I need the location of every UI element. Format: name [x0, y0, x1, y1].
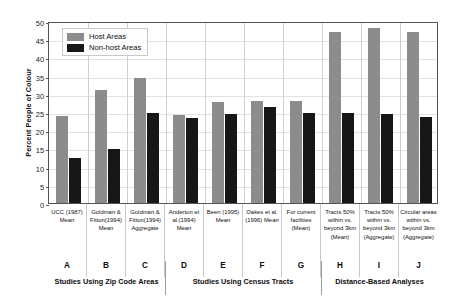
group-separator: [165, 261, 166, 295]
legend-label-nonhost: Non-host Areas: [89, 43, 141, 52]
y-axis-tick-label: 30: [36, 91, 44, 100]
y-axis-tick-label: 0: [40, 201, 44, 210]
y-axis-tick-label: 10: [36, 164, 44, 173]
bar-nonhost: [225, 114, 237, 203]
x-axis-category-letter: D: [165, 261, 204, 277]
y-axis-tick-label: 35: [36, 73, 44, 82]
bar-host: [368, 28, 380, 203]
nonhost-swatch-icon: [67, 44, 84, 52]
legend-item-host: Host Areas: [67, 32, 141, 41]
x-axis-category-label: Circular areas within vs. beyond 3km (Ag…: [399, 204, 438, 261]
x-axis-category-letter: E: [204, 261, 243, 277]
bar-nonhost: [342, 113, 354, 203]
x-axis-category-label: For current facilities (Mean): [282, 204, 321, 261]
legend: Host Areas Non-host Areas: [62, 28, 148, 56]
bar-nonhost: [420, 117, 432, 203]
x-axis-category-label: Tracts 50% within vs. beyond 3km (Aggreg…: [360, 204, 399, 261]
bar-group: [283, 23, 322, 203]
x-axis-category-label: Goldman & Fitton(1994) Aggregate: [126, 204, 165, 261]
bar-host: [212, 102, 224, 203]
x-axis-category-label: UCC (1987) Mean: [48, 204, 87, 261]
bar-group: [361, 23, 400, 203]
bar-group: [400, 23, 439, 203]
y-axis-tick-label: 5: [40, 182, 44, 191]
x-axis-category-letter: A: [48, 261, 87, 277]
x-axis-group-label: Studies Using Census Tracts: [165, 277, 321, 295]
x-axis-group-band: Studies Using Zip Code AreasStudies Usin…: [48, 277, 438, 295]
bar-host: [407, 32, 419, 203]
x-axis-category-label: Oakes et al. (1996) Mean: [243, 204, 282, 261]
x-axis-category-label: Anderton et al.(1994) Mean: [165, 204, 204, 261]
chart-root: Percent People of Colour 051015202530354…: [0, 0, 452, 299]
y-axis-tick-label: 50: [36, 19, 44, 28]
legend-label-host: Host Areas: [89, 32, 126, 41]
x-axis-category-letter: B: [87, 261, 126, 277]
bar-host: [329, 32, 341, 203]
bar-host: [134, 78, 146, 203]
x-axis-category-letter: I: [360, 261, 399, 277]
bar-nonhost: [303, 113, 315, 203]
y-axis-tick-label: 15: [36, 146, 44, 155]
bar-group: [322, 23, 361, 203]
x-axis-label-band: UCC (1987) MeanGoldman & Fitton(1994) Me…: [48, 204, 438, 261]
x-axis-category-label: Been (1995) Mean: [204, 204, 243, 261]
bar-group: [166, 23, 205, 203]
x-axis-category-letter: C: [126, 261, 165, 277]
bar-host: [290, 101, 302, 203]
y-axis-tick-label: 25: [36, 110, 44, 119]
bar-nonhost: [69, 158, 81, 204]
bar-host: [56, 116, 68, 203]
x-axis-category-letter: H: [321, 261, 360, 277]
group-separator: [321, 261, 322, 295]
bar-group: [244, 23, 283, 203]
y-axis-tick-label: 40: [36, 55, 44, 64]
bar-nonhost: [186, 118, 198, 203]
y-axis-title: Percent People of Colour: [24, 33, 33, 193]
y-axis-tick-label: 45: [36, 37, 44, 46]
y-axis-tick-label: 20: [36, 128, 44, 137]
x-axis-category-letter: J: [399, 261, 438, 277]
x-axis-letter-band: ABCDEFGHIJ: [48, 261, 438, 277]
x-axis-category-letter: G: [282, 261, 321, 277]
x-axis-category-label: Tracts 50% within vs. beyond 3km (Mean): [321, 204, 360, 261]
bar-nonhost: [147, 113, 159, 203]
bar-host: [95, 90, 107, 203]
legend-item-nonhost: Non-host Areas: [67, 43, 141, 52]
x-axis-category-letter: F: [243, 261, 282, 277]
x-axis-category-label: Goldman & Fitton(1994) Mean: [87, 204, 126, 261]
bar-host: [173, 115, 185, 203]
bar-nonhost: [264, 107, 276, 203]
bar-nonhost: [108, 149, 120, 203]
bar-group: [205, 23, 244, 203]
x-axis-group-label: Distance-Based Analyses: [321, 277, 438, 295]
host-swatch-icon: [67, 33, 84, 41]
x-axis-group-label: Studies Using Zip Code Areas: [48, 277, 165, 295]
bar-host: [251, 101, 263, 203]
bar-nonhost: [381, 114, 393, 203]
